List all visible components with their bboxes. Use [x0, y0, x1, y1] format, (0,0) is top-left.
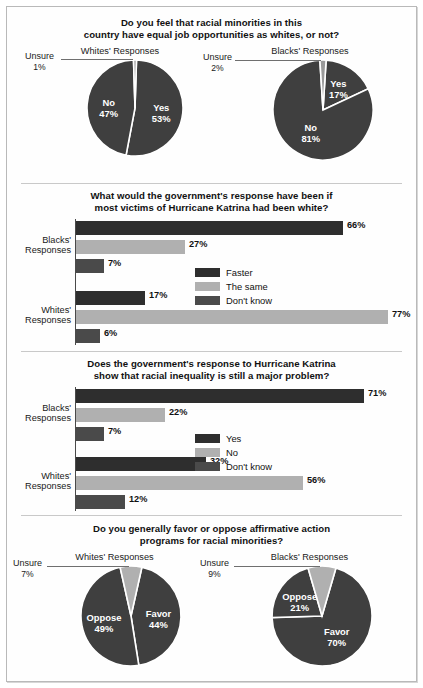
chart-legend: YesNoDon't know — [195, 433, 272, 475]
callout-label: Unsure — [203, 52, 232, 62]
bar-group-label: Blacks'Responses — [7, 235, 71, 256]
bar — [76, 240, 185, 254]
slice-value-oppose: 49% — [95, 623, 114, 634]
bar — [76, 427, 104, 441]
bar-value-label: 6% — [104, 328, 117, 338]
panel-1-bars-area: Blacks'Responses66%27%7%Whites'Responses… — [7, 217, 416, 352]
slice-value-yes: 17% — [329, 89, 348, 100]
group-label-line2: Responses — [7, 315, 71, 326]
panel-katrina-response-if-white: What would the government's response hav… — [7, 187, 416, 351]
bar-value-label: 7% — [108, 258, 121, 268]
panel-3-pie-row: Whites' ResponsesFavor44%Oppose49%Unsure… — [7, 552, 416, 678]
pie-callout-unsure: Unsure2% — [203, 52, 232, 74]
slice-value-oppose: 21% — [290, 602, 309, 613]
value-axis — [75, 219, 76, 345]
bar-value-label: 12% — [129, 494, 147, 504]
panel-2-title-line2: show that racial inequality is still a m… — [7, 370, 416, 382]
legend-item: Yes — [195, 433, 272, 445]
slice-label-oppose: Oppose — [87, 612, 122, 623]
group-label-line1: Whites' — [7, 471, 71, 482]
bar — [76, 457, 206, 471]
slice-value-no: 47% — [99, 108, 118, 119]
divider-1 — [21, 183, 402, 184]
pie-caption: Whites' Responses — [17, 552, 212, 562]
bar — [76, 476, 303, 490]
legend-label: Faster — [226, 267, 253, 278]
callout-leader-line — [61, 59, 133, 60]
legend-swatch — [195, 448, 220, 457]
poster-frame: Do you feel that racial minorities in th… — [6, 6, 417, 682]
legend-item: The same — [195, 281, 272, 293]
callout-value: 1% — [25, 62, 54, 73]
panel-katrina-racial-inequality: Does the government's response to Hurric… — [7, 355, 416, 515]
bar-value-label: 7% — [108, 426, 121, 436]
slice-label-favor: Favor — [324, 626, 350, 637]
legend-item: Don't know — [195, 295, 272, 307]
callout-leader-line — [47, 566, 129, 567]
bar-value-label: 66% — [347, 220, 365, 230]
group-label-line1: Blacks' — [7, 235, 71, 246]
bar-value-label: 27% — [189, 239, 207, 249]
panel-0-pie-row: Whites' ResponsesYes53%No47%Unsure1%Blac… — [7, 46, 416, 166]
pie-chart-whites-jobs: Whites' ResponsesYes53%No47%Unsure1% — [25, 46, 215, 158]
divider-3 — [21, 515, 402, 516]
bar-group-label: Blacks'Responses — [7, 403, 71, 424]
pie-canvas: Favor44%Oppose49%Unsure7% — [17, 564, 212, 668]
bar-value-label: 22% — [169, 407, 187, 417]
divider-2 — [21, 351, 402, 352]
legend-label: Don't know — [226, 461, 272, 472]
group-label-line2: Responses — [7, 481, 71, 492]
legend-swatch — [195, 296, 220, 305]
chart-legend: FasterThe sameDon't know — [195, 267, 272, 309]
group-label-line2: Responses — [7, 413, 71, 424]
bar — [76, 221, 343, 235]
group-label-line2: Responses — [7, 245, 71, 256]
pie-chart-blacks-aa: Blacks' ResponsesFavor70%Oppose21%Unsure… — [212, 552, 407, 668]
slice-label-yes: Yes — [330, 78, 346, 89]
panel-2-bars-area: Blacks'Responses71%22%7%Whites'Responses… — [7, 385, 416, 517]
callout-value: 7% — [13, 569, 42, 580]
pie-canvas: Yes53%No47%Unsure1% — [25, 58, 215, 158]
panel-1-title-line2: most victims of Hurricane Katrina had be… — [7, 202, 416, 214]
slice-value-favor: 44% — [149, 619, 168, 630]
bar-group-label: Whites'Responses — [7, 305, 71, 326]
callout-value: 2% — [203, 63, 232, 74]
pie-chart-blacks-jobs: Blacks' ResponsesYes17%No81%Unsure2% — [215, 46, 405, 162]
legend-swatch — [195, 268, 220, 277]
slice-label-favor: Favor — [146, 608, 172, 619]
legend-swatch — [195, 462, 220, 471]
legend-label: Don't know — [226, 295, 272, 306]
infographic-poster: Do you feel that racial minorities in th… — [0, 0, 423, 688]
panel-1-title-line1: What would the government's response hav… — [7, 187, 416, 202]
bar-value-label: 17% — [149, 290, 167, 300]
callout-label: Unsure — [13, 558, 42, 568]
bar-group-label: Whites'Responses — [7, 471, 71, 492]
pie-callout-unsure: Unsure7% — [13, 558, 42, 580]
pie-chart-whites-aa: Whites' ResponsesFavor44%Oppose49%Unsure… — [17, 552, 212, 668]
group-label-line1: Whites' — [7, 305, 71, 316]
callout-label: Unsure — [200, 558, 229, 568]
bar — [76, 329, 100, 343]
slice-value-no: 81% — [301, 132, 320, 143]
legend-swatch — [195, 282, 220, 291]
panel-equal-job-opportunities: Do you feel that racial minorities in th… — [7, 13, 416, 183]
bar — [76, 389, 364, 403]
bar — [76, 291, 145, 305]
panel-affirmative-action: Do you generally favor or oppose affirma… — [7, 519, 416, 679]
bar — [76, 310, 388, 324]
bar — [76, 495, 125, 509]
pie-callout-unsure: Unsure9% — [200, 558, 229, 580]
panel-0-title-line1: Do you feel that racial minorities in th… — [7, 13, 416, 29]
bar-value-label: 71% — [368, 388, 386, 398]
callout-leader-line — [235, 60, 321, 61]
bar-value-label: 56% — [307, 475, 325, 485]
callout-value: 9% — [200, 569, 229, 580]
pie-caption: Blacks' Responses — [215, 46, 405, 56]
pie-callout-unsure: Unsure1% — [25, 51, 54, 73]
slice-value-favor: 70% — [327, 637, 346, 648]
slice-label-no: No — [102, 97, 115, 108]
legend-swatch — [195, 434, 220, 443]
callout-leader-line — [234, 566, 320, 567]
slice-label-no: No — [305, 121, 318, 132]
slice-value-yes: 53% — [152, 113, 171, 124]
